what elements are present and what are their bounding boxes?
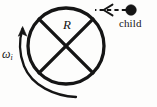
rotation-arc-arrowhead-icon [18, 27, 27, 37]
physics-diagram-figure: R ωi child [0, 0, 157, 107]
omega-subscript: i [10, 53, 12, 62]
radius-label: R [63, 18, 71, 31]
angular-velocity-label: ωi [2, 48, 13, 62]
child-dot [126, 5, 137, 16]
child-label: child [119, 18, 142, 29]
